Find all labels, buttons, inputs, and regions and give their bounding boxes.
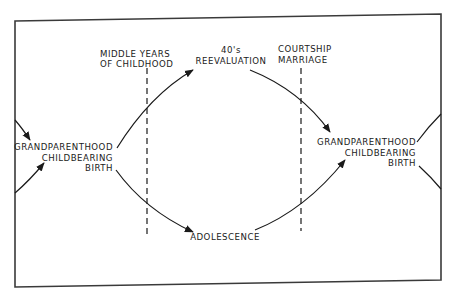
node-bottom-line1: ADOLESCENCE xyxy=(190,232,260,242)
divider-label-middle-years-1: MIDDLE YEARS xyxy=(100,49,170,59)
arrow-left-to-top xyxy=(117,70,193,148)
line-right-to-offscreen-up xyxy=(417,114,441,142)
divider-label-courtship-1: COURTSHIP xyxy=(278,44,332,54)
node-right-line2: CHILDBEARING xyxy=(345,148,416,158)
node-top-line2: REEVALUATION xyxy=(196,56,267,66)
arrow-left-to-bottom xyxy=(116,170,193,232)
arrow-bottom-to-right xyxy=(255,160,345,230)
node-right-line1: GRANDPARENTHOOD xyxy=(317,137,416,147)
divider-label-middle-years-2: OF CHILDHOOD xyxy=(100,59,173,69)
node-top-line1: 40's xyxy=(221,45,241,55)
node-right-line3: BIRTH xyxy=(388,158,416,168)
node-left-line2: CHILDBEARING xyxy=(42,153,113,163)
arrow-offscreen-top-to-left xyxy=(15,120,30,140)
divider-label-courtship-2: MARRIAGE xyxy=(278,55,328,65)
arrow-top-to-right xyxy=(250,70,330,132)
node-left-line1: GRANDPARENTHOOD xyxy=(14,142,113,152)
node-left-line3: BIRTH xyxy=(85,163,113,173)
diagram-canvas: MIDDLE YEARS OF CHILDHOOD 40's REEVALUAT… xyxy=(0,0,456,297)
line-right-to-offscreen-down xyxy=(419,166,441,189)
arrow-offscreen-bottom-to-left xyxy=(15,163,44,193)
